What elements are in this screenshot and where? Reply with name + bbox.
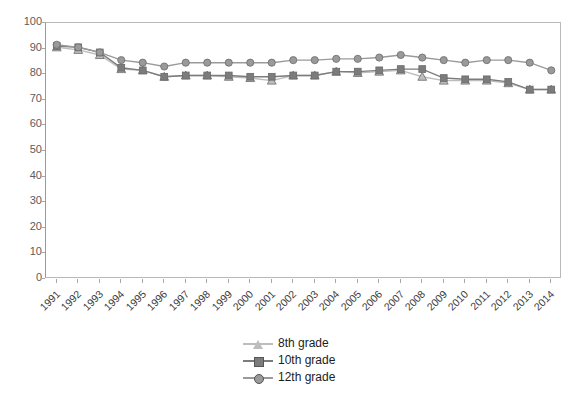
y-axis-tick-label: 70 — [6, 93, 42, 104]
x-axis-tick-mark — [529, 279, 530, 283]
data-point — [397, 66, 404, 73]
data-point — [440, 75, 447, 82]
data-point — [225, 72, 232, 79]
legend-item: 8th grade — [243, 335, 357, 352]
series-10th-grade — [53, 43, 554, 93]
data-point — [182, 72, 189, 79]
data-point — [505, 57, 512, 64]
y-axis-tick-mark — [41, 227, 45, 228]
x-axis-tick-label: 2011 — [440, 288, 492, 340]
data-point — [247, 73, 254, 80]
x-axis-tick-mark — [120, 279, 121, 283]
data-point — [462, 76, 469, 83]
y-axis-tick-mark — [41, 252, 45, 253]
y-axis-tick-mark — [41, 22, 45, 23]
y-axis-tick-mark — [41, 278, 45, 279]
series-line — [57, 45, 552, 71]
data-point — [526, 59, 533, 66]
data-point — [333, 55, 340, 62]
x-axis-tick-mark — [357, 279, 358, 283]
y-axis-tick-mark — [41, 124, 45, 125]
x-axis-tick-mark — [185, 279, 186, 283]
data-point — [548, 86, 555, 93]
y-axis-tick-label: 30 — [6, 195, 42, 206]
data-point — [268, 73, 275, 80]
data-point — [118, 57, 125, 64]
x-axis-tick-mark — [228, 279, 229, 283]
x-axis-tick-mark — [464, 279, 465, 283]
legend-swatch-10th-grade — [243, 354, 273, 367]
data-point — [204, 72, 211, 79]
legend-item: 12th grade — [243, 369, 357, 386]
x-axis-tick-label: 2012 — [461, 288, 513, 340]
data-point — [118, 64, 125, 71]
data-point — [333, 68, 340, 75]
x-axis-tick-label: 1996 — [117, 288, 169, 340]
x-axis-tick-mark — [550, 279, 551, 283]
triangle-marker-icon — [253, 340, 263, 349]
data-point — [419, 54, 426, 61]
data-point — [376, 67, 383, 74]
data-point — [290, 72, 297, 79]
circle-marker-icon — [254, 374, 264, 384]
data-point — [139, 59, 146, 66]
legend-label-10th-grade: 10th grade — [278, 354, 335, 367]
data-point — [161, 63, 168, 70]
data-point — [75, 44, 82, 51]
y-axis-tick-mark — [41, 176, 45, 177]
legend-swatch-12th-grade — [243, 371, 273, 384]
x-axis-tick-mark — [56, 279, 57, 283]
x-axis-tick-mark — [335, 279, 336, 283]
data-point — [139, 67, 146, 74]
y-axis-tick-label: 100 — [6, 16, 42, 27]
chart-figure: 0102030405060708090100 19911992199319941… — [0, 0, 583, 395]
y-axis-tick-mark — [41, 99, 45, 100]
x-axis-tick-label: 1998 — [160, 288, 212, 340]
data-point — [419, 66, 426, 73]
data-point — [354, 68, 361, 75]
data-point — [96, 49, 103, 56]
y-axis-tick-label: 90 — [6, 42, 42, 53]
data-point — [225, 59, 232, 66]
data-point — [268, 59, 275, 66]
data-point — [53, 41, 60, 48]
x-axis-tick-mark — [292, 279, 293, 283]
x-axis-tick-mark — [271, 279, 272, 283]
data-point — [204, 59, 211, 66]
data-point — [376, 54, 383, 61]
x-axis-tick-label: 2010 — [418, 288, 470, 340]
chart-legend: 8th grade 10th grade 12th grade — [239, 331, 363, 390]
data-point — [462, 59, 469, 66]
x-axis-tick-label: 2009 — [397, 288, 449, 340]
x-axis-tick-label: 2008 — [375, 288, 427, 340]
data-point — [440, 57, 447, 64]
x-axis-tick-mark — [378, 279, 379, 283]
data-point — [505, 78, 512, 85]
y-axis-tick-label: 60 — [6, 118, 42, 129]
x-axis-tick-mark — [507, 279, 508, 283]
x-axis-tick-mark — [206, 279, 207, 283]
data-point — [290, 57, 297, 64]
x-axis-tick-label: 2013 — [483, 288, 535, 340]
y-axis-tick-mark — [41, 201, 45, 202]
x-axis-tick-mark — [77, 279, 78, 283]
data-point — [483, 57, 490, 64]
x-axis-tick-mark — [314, 279, 315, 283]
y-axis: 0102030405060708090100 — [0, 0, 42, 300]
data-point — [354, 55, 361, 62]
y-axis-tick-label: 50 — [6, 144, 42, 155]
y-axis-tick-label: 0 — [6, 272, 42, 283]
data-point — [548, 67, 555, 74]
y-axis-tick-mark — [41, 150, 45, 151]
x-axis-tick-mark — [443, 279, 444, 283]
data-point — [397, 51, 404, 58]
x-axis-tick-label: 2014 — [504, 288, 556, 340]
x-axis-tick-mark — [142, 279, 143, 283]
x-axis-tick-label: 1999 — [182, 288, 234, 340]
x-axis-tick-mark — [421, 279, 422, 283]
x-axis-tick-mark — [99, 279, 100, 283]
y-axis-tick-label: 80 — [6, 67, 42, 78]
x-axis-tick-mark — [163, 279, 164, 283]
data-point — [311, 72, 318, 79]
data-point — [483, 76, 490, 83]
